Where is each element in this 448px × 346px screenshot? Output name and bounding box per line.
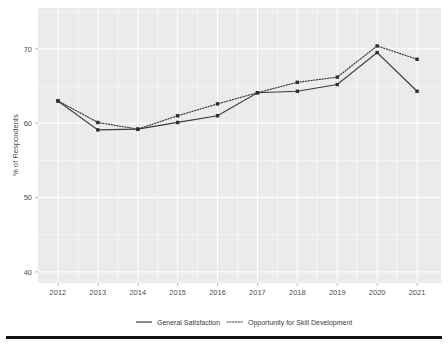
x-tick-label: 2021 [409,288,426,297]
data-point [176,121,179,124]
x-tick-label: 2016 [209,288,226,297]
data-point [256,91,259,94]
data-point [96,121,99,124]
y-axis-title: % of Respondents [11,114,20,176]
y-tick-label: 70 [24,45,32,54]
data-point [296,90,299,93]
data-point [336,75,339,78]
data-point [415,58,418,61]
data-point [415,90,418,93]
data-point [375,44,378,47]
x-tick-label: 2012 [50,288,67,297]
data-point [216,114,219,117]
x-tick-label: 2017 [249,288,266,297]
x-tick-label: 2014 [129,288,146,297]
data-point [296,81,299,84]
y-tick-label: 50 [24,193,32,202]
x-tick-label: 2013 [90,288,107,297]
x-tick-label: 2020 [369,288,386,297]
x-tick-label: 2019 [329,288,346,297]
data-point [216,102,219,105]
data-point [96,128,99,131]
footer-bar [6,336,442,339]
y-tick-label: 40 [24,268,32,277]
data-point [336,83,339,86]
data-point [375,51,378,54]
data-point [136,127,139,130]
data-point [56,99,59,102]
chart-figure: 2012201320142015201620172018201920202021… [0,0,448,346]
x-tick-label: 2015 [169,288,186,297]
y-tick-label: 60 [24,119,32,128]
legend-label-general-satisfaction: General Satisfaction [157,319,220,326]
data-point [176,114,179,117]
x-tick-label: 2018 [289,288,306,297]
legend-label-opportunity-for-skill-development: Opportunity for Skill Development [248,319,352,327]
